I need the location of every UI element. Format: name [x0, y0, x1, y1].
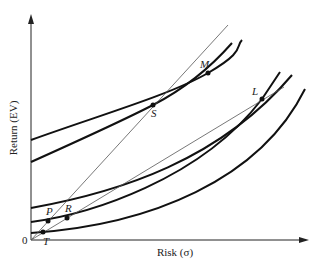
- y-axis-label: Return (EV): [7, 100, 20, 155]
- point-r: [65, 216, 70, 221]
- indifference-curves: [31, 40, 305, 233]
- point-label-s: S: [151, 107, 157, 119]
- point-label-m: M: [199, 58, 210, 70]
- y-axis-arrow-icon: [28, 14, 34, 24]
- x-axis-arrow-icon: [299, 237, 309, 243]
- point-p: [46, 219, 51, 224]
- risk-return-diagram: MSLPRT 0 Risk (σ) Return (EV): [0, 0, 323, 264]
- x-axis-label: Risk (σ): [157, 246, 194, 259]
- steep-ray: [31, 25, 228, 240]
- point-label-l: L: [251, 85, 258, 97]
- curve-5: [31, 89, 305, 233]
- diagram-canvas: MSLPRT 0 Risk (σ) Return (EV): [0, 0, 323, 264]
- origin-label: 0: [22, 234, 28, 246]
- point-label-t: T: [43, 235, 50, 247]
- tangency-points: MSLPRT: [41, 58, 265, 247]
- point-label-p: P: [45, 205, 53, 217]
- point-m: [206, 71, 211, 76]
- point-t: [41, 230, 46, 235]
- point-l: [260, 97, 265, 102]
- point-label-r: R: [64, 202, 72, 214]
